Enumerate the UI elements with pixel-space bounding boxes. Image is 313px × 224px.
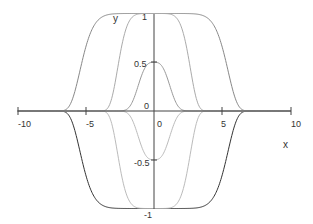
y-tick-label: 1: [142, 12, 147, 22]
y-tick-label: 0.5: [134, 59, 147, 69]
y-axis-label: y: [113, 13, 118, 24]
x-tick-label: -5: [86, 119, 94, 129]
plot-area: [0, 0, 313, 224]
x-tick-label: 5: [221, 119, 226, 129]
x-axis-label: x: [283, 139, 288, 150]
y-tick-label: -0.5: [134, 158, 150, 168]
y-tick-label: -1: [144, 210, 152, 220]
x-tick-label: -10: [18, 119, 31, 129]
x-tick-label: 10: [291, 119, 301, 129]
y-tick-label: 0: [144, 101, 149, 111]
x-tick-label: 0: [157, 119, 162, 129]
